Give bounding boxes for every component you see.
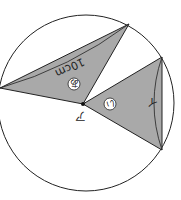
- arc-label: イ: [147, 95, 158, 108]
- region-label-1: あ: [70, 78, 79, 88]
- point-a-dot: [81, 102, 85, 106]
- region-label-2: い: [106, 98, 115, 108]
- point-label: ア: [75, 109, 86, 122]
- geometry-diagram: 10cm あ い イ ア: [0, 0, 181, 200]
